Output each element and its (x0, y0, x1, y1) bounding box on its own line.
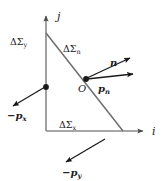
delta-sigma-y-label: ΔΣy (10, 36, 28, 49)
origin-point-dot (83, 76, 89, 82)
diagram-root: j i ΔΣy ΔΣn ΔΣx O n pn −px −py (0, 0, 168, 181)
traction-vector-minus-py-label: −py (62, 167, 82, 180)
inclined-face-line (46, 33, 123, 131)
normal-vector-n-label: n (110, 57, 117, 68)
traction-vector-minus-px-label: −px (7, 110, 27, 123)
traction-vector-minus-px-subscript: x (21, 115, 27, 123)
delta-sigma-y-subscript: y (23, 41, 28, 49)
traction-vector-minus-px-line (13, 87, 45, 106)
delta-sigma-n-symbol: ΔΣ (63, 43, 77, 54)
delta-sigma-x-subscript: x (73, 124, 77, 132)
px-application-point-dot (43, 84, 49, 90)
delta-sigma-y-symbol: ΔΣ (10, 36, 24, 47)
delta-sigma-n-subscript: n (77, 48, 81, 56)
delta-sigma-n-label: ΔΣn (63, 43, 81, 56)
traction-vector-minus-py-subscript: y (76, 172, 82, 180)
delta-sigma-x-symbol: ΔΣ (59, 119, 73, 130)
traction-vector-minus-py-line (66, 139, 105, 162)
traction-vector-minus-px-symbol: −p (7, 110, 22, 121)
traction-vector-pn-symbol: p (98, 83, 105, 94)
traction-vector-pn-subscript: n (105, 88, 110, 96)
normal-vector-n-symbol: n (110, 57, 117, 68)
j-axis-label: j (54, 10, 61, 23)
origin-label: O (78, 83, 86, 94)
i-axis-label: i (152, 125, 156, 138)
traction-vector-minus-py-symbol: −p (62, 167, 77, 178)
traction-vector-pn-label: pn (98, 83, 110, 96)
cauchy-tetrahedron-figure: j i ΔΣy ΔΣn ΔΣx O n pn −px −py (0, 0, 168, 181)
